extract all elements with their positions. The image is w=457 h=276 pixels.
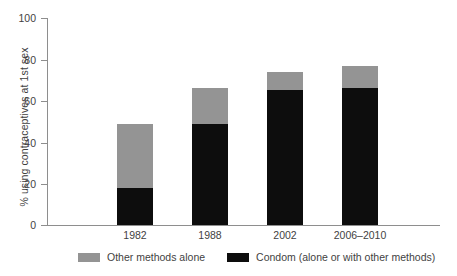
x-tick-label-1982: 1982	[105, 229, 165, 241]
bar-segment-other-2002	[267, 72, 303, 91]
bar-segment-condom-1988	[192, 124, 228, 225]
bar-segment-condom-2006-2010	[342, 88, 378, 225]
x-tick-label-2002: 2002	[255, 229, 315, 241]
bar-2006-2010[interactable]	[342, 66, 378, 225]
y-tick-100	[41, 18, 47, 19]
y-tick-label-60: 60	[2, 96, 36, 107]
legend-swatch-condom	[227, 253, 249, 262]
caption-remnant	[0, 270, 457, 276]
y-tick-label-20: 20	[2, 179, 36, 190]
bar-1982[interactable]	[117, 124, 153, 225]
bar-segment-condom-1982	[117, 188, 153, 225]
y-tick-60	[41, 101, 47, 102]
y-tick-80	[41, 60, 47, 61]
legend-swatch-other-methods	[78, 253, 100, 262]
y-axis-line	[47, 18, 48, 226]
chart-legend: Other methods alone Condom (alone or wit…	[78, 251, 435, 263]
y-tick-label-100: 100	[2, 13, 36, 24]
legend-item-other-methods[interactable]: Other methods alone	[78, 251, 205, 263]
y-tick-20	[41, 184, 47, 185]
legend-item-condom[interactable]: Condom (alone or with other methods)	[227, 251, 435, 263]
bar-segment-other-1988	[192, 88, 228, 123]
y-tick-0	[41, 225, 47, 226]
legend-label-other-methods: Other methods alone	[107, 251, 205, 263]
bar-segment-other-2006-2010	[342, 66, 378, 89]
bar-segment-other-1982	[117, 124, 153, 188]
y-tick-label-0: 0	[2, 220, 36, 231]
x-tick-label-1988: 1988	[180, 229, 240, 241]
legend-label-condom: Condom (alone or with other methods)	[256, 251, 435, 263]
y-tick-40	[41, 143, 47, 144]
y-tick-label-40: 40	[2, 138, 36, 149]
x-axis-line	[47, 225, 440, 226]
bar-1988[interactable]	[192, 88, 228, 225]
x-tick-label-2006-2010: 2006–2010	[320, 229, 400, 241]
y-tick-label-80: 80	[2, 55, 36, 66]
bar-2002[interactable]	[267, 72, 303, 225]
stacked-bar-chart: % using contraceptives at 1st sex 100 80…	[0, 0, 457, 276]
bar-segment-condom-2002	[267, 90, 303, 225]
